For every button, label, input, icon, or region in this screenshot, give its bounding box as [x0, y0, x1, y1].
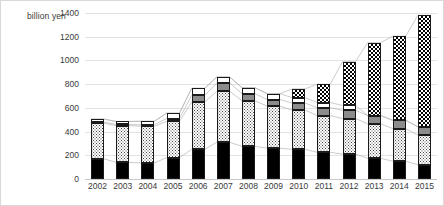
bar-segment-gray[interactable]	[242, 94, 255, 101]
bar-segment-black[interactable]	[91, 159, 104, 179]
gridline-600	[85, 108, 437, 109]
bar-segment-gray[interactable]	[368, 116, 381, 124]
bar-group[interactable]	[192, 13, 205, 179]
y-tick-label: 1200	[39, 32, 79, 42]
bar-segment-dotted[interactable]	[368, 124, 381, 158]
bar-segment-black[interactable]	[393, 161, 406, 179]
bar-group[interactable]	[418, 13, 431, 179]
bar-segment-black[interactable]	[317, 152, 330, 179]
y-tick-label: 800	[39, 79, 79, 89]
bar-segment-checkered[interactable]	[343, 62, 356, 106]
bar-segment-white[interactable]	[167, 113, 180, 118]
gridline-1400	[85, 13, 437, 14]
bar-segment-black[interactable]	[116, 162, 129, 179]
bar-segment-black[interactable]	[217, 142, 230, 179]
bar-segment-white[interactable]	[141, 121, 154, 125]
bar-group[interactable]	[167, 13, 180, 179]
y-tick-label: 1400	[39, 8, 79, 18]
bar-segment-gray[interactable]	[292, 103, 305, 110]
bar-group[interactable]	[116, 13, 129, 179]
gridline-800	[85, 84, 437, 85]
bar-segment-dotted[interactable]	[242, 101, 255, 147]
bar-segment-black[interactable]	[141, 163, 154, 179]
bar-segment-checkered[interactable]	[292, 89, 305, 98]
gridline-1000	[85, 60, 437, 61]
bar-segment-gray[interactable]	[91, 122, 104, 124]
bar-segment-checkered[interactable]	[368, 43, 381, 116]
bar-segment-gray[interactable]	[167, 119, 180, 122]
bar-segment-dotted[interactable]	[141, 126, 154, 163]
bar-segment-gray[interactable]	[317, 108, 330, 116]
bar-segment-white[interactable]	[116, 121, 129, 124]
bar-segment-black[interactable]	[418, 165, 431, 179]
bar-group[interactable]	[217, 13, 230, 179]
bar-segment-black[interactable]	[192, 149, 205, 179]
bar-segment-gray[interactable]	[192, 95, 205, 102]
bar-segment-dotted[interactable]	[418, 135, 431, 165]
bar-segment-black[interactable]	[343, 154, 356, 179]
y-tick-label: 1000	[39, 55, 79, 65]
y-tick-label: 200	[39, 150, 79, 160]
bar-group[interactable]	[368, 13, 381, 179]
bar-segment-gray[interactable]	[141, 125, 154, 127]
gridline-400	[85, 132, 437, 133]
bar-segment-gray[interactable]	[343, 110, 356, 118]
bar-segment-dotted[interactable]	[217, 91, 230, 142]
gridline-0	[85, 179, 437, 180]
gridline-1200	[85, 37, 437, 38]
bar-group[interactable]	[317, 13, 330, 179]
bar-segment-black[interactable]	[368, 158, 381, 179]
bar-group[interactable]	[393, 13, 406, 179]
bar-segment-dotted[interactable]	[393, 129, 406, 162]
bar-segment-black[interactable]	[242, 146, 255, 179]
bar-segment-dotted[interactable]	[343, 119, 356, 155]
bar-segment-gray[interactable]	[116, 124, 129, 126]
bar-segment-white[interactable]	[343, 105, 356, 110]
bar-group[interactable]	[91, 13, 104, 179]
bar-group[interactable]	[267, 13, 280, 179]
bar-segment-dotted[interactable]	[167, 121, 180, 157]
bar-group[interactable]	[242, 13, 255, 179]
bar-segment-dotted[interactable]	[116, 126, 129, 163]
gridline-200	[85, 155, 437, 156]
bar-segment-white[interactable]	[217, 77, 230, 83]
bar-group[interactable]	[292, 13, 305, 179]
series-connector-lines	[85, 13, 437, 179]
bar-segment-white[interactable]	[91, 119, 104, 122]
bar-segment-white[interactable]	[292, 98, 305, 103]
bar-segment-dotted[interactable]	[91, 123, 104, 159]
bar-segment-white[interactable]	[192, 88, 205, 95]
y-tick-label: 400	[39, 127, 79, 137]
bar-segment-black[interactable]	[267, 148, 280, 179]
bar-segment-white[interactable]	[267, 94, 280, 100]
x-axis-labels: 2002200320042005200620072008200920102011…	[85, 181, 437, 195]
bar-segment-gray[interactable]	[217, 83, 230, 91]
bar-segment-black[interactable]	[167, 158, 180, 179]
x-tick-label: 2015	[407, 181, 441, 191]
bar-group[interactable]	[343, 13, 356, 179]
bar-segment-checkered[interactable]	[393, 36, 406, 120]
bar-segment-dotted[interactable]	[317, 116, 330, 153]
bar-segment-checkered[interactable]	[418, 15, 431, 126]
plot-area	[85, 13, 437, 179]
bar-segment-dotted[interactable]	[267, 106, 280, 148]
chart-figure: billion yen 1400120010008006004002000 20…	[0, 0, 444, 206]
bar-segment-white[interactable]	[317, 103, 330, 108]
bar-segment-dotted[interactable]	[192, 102, 205, 149]
bar-segment-checkered[interactable]	[317, 84, 330, 102]
bar-segment-white[interactable]	[242, 88, 255, 94]
bar-segment-black[interactable]	[292, 149, 305, 179]
y-tick-label: 600	[39, 103, 79, 113]
bar-segment-gray[interactable]	[267, 100, 280, 107]
bar-segment-gray[interactable]	[393, 120, 406, 128]
bar-group[interactable]	[141, 13, 154, 179]
bar-segment-dotted[interactable]	[292, 110, 305, 149]
bar-segment-gray[interactable]	[418, 127, 431, 135]
y-tick-label: 0	[39, 174, 79, 184]
